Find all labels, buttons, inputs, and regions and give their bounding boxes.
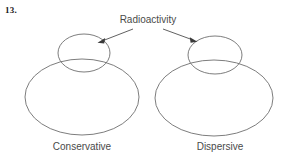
figure-conservative (25, 34, 139, 135)
caption-conservative: Conservative (32, 140, 132, 153)
conservative-body-ellipse (25, 59, 139, 135)
figure-dispersive (155, 36, 273, 136)
conservative-dome-ellipse (58, 34, 110, 72)
arrow-to-conservative (98, 29, 134, 44)
radioactivity-label: Radioactivity (113, 13, 183, 26)
dispersive-body-ellipse (155, 60, 273, 136)
arrowhead-right-icon (190, 37, 198, 43)
diagram-figure: 13. Radioactivity Conservative Dispersiv… (0, 0, 288, 165)
arrow-to-dispersive (163, 29, 198, 43)
caption-dispersive: Dispersive (170, 140, 270, 153)
